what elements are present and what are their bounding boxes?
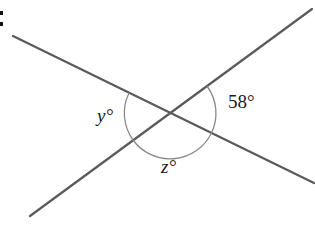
label-given-angle: 58°: [228, 91, 255, 112]
angle-arc-58: [207, 86, 216, 134]
corner-marker-top: [0, 11, 3, 15]
angle-arc-y: [124, 93, 133, 140]
line-ascending: [30, 9, 312, 216]
label-z-angle: z°: [160, 156, 176, 177]
label-y-angle: y°: [95, 105, 113, 126]
intersecting-lines-diagram: y° z° 58°: [0, 0, 315, 251]
corner-marker-bottom: [0, 22, 3, 26]
